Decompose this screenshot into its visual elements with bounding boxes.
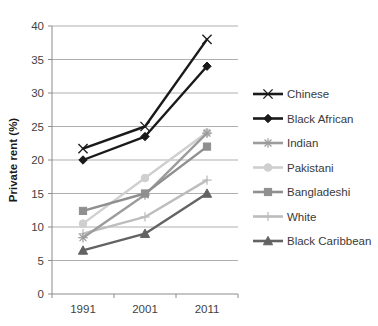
square-marker — [203, 143, 210, 150]
y-tick-label: 15 — [31, 188, 44, 200]
legend-item-label: White — [287, 211, 316, 223]
square-marker — [264, 188, 271, 195]
legend-item-label: Indian — [287, 137, 318, 149]
line-chart-private-rent: 0510152025303540 199120012011 Private re… — [0, 0, 378, 326]
asterisk-marker — [263, 138, 273, 148]
legend-item-label: Chinese — [287, 88, 329, 100]
square-marker — [141, 190, 148, 197]
legend-item-label: Bangladeshi — [287, 186, 350, 198]
y-tick-label: 10 — [31, 221, 44, 233]
chart-canvas: 0510152025303540 199120012011 Private re… — [0, 0, 378, 326]
y-axis-tick-labels: 0510152025303540 — [31, 20, 44, 300]
legend-item[interactable]: Indian — [253, 137, 318, 149]
series-plot-group — [78, 35, 212, 254]
x-cross-marker — [202, 35, 211, 44]
y-tick-label: 30 — [31, 87, 44, 99]
x-tick-label: 2001 — [132, 303, 158, 315]
asterisk-marker — [78, 233, 88, 243]
x-tick-label: 1991 — [70, 303, 96, 315]
series-line — [83, 194, 207, 251]
y-tick-label: 40 — [31, 20, 44, 32]
y-tick-label: 0 — [38, 288, 44, 300]
x-axis-tick-labels: 199120012011 — [70, 303, 219, 315]
x-tick-label: 2011 — [195, 303, 220, 315]
asterisk-marker — [202, 128, 212, 138]
y-axis-ticks — [48, 26, 52, 294]
x-axis-ticks — [52, 294, 238, 298]
legend-item[interactable]: Bangladeshi — [253, 186, 350, 198]
y-tick-label: 35 — [31, 54, 44, 66]
series-line — [83, 133, 207, 238]
legend-item[interactable]: Black African — [253, 113, 353, 125]
legend-item-label: Pakistani — [287, 162, 334, 174]
y-tick-label: 5 — [38, 255, 44, 267]
legend-item[interactable]: Pakistani — [253, 162, 334, 174]
y-tick-label: 20 — [31, 154, 44, 166]
legend-item-label: Black Caribbean — [287, 235, 371, 247]
circle-marker — [79, 220, 87, 228]
y-tick-label: 25 — [31, 121, 44, 133]
diamond-marker — [79, 156, 87, 164]
circle-marker — [264, 164, 272, 172]
chart-legend: ChineseBlack AfricanIndianPakistaniBangl… — [253, 88, 371, 247]
legend-item[interactable]: Chinese — [253, 88, 329, 100]
legend-item[interactable]: Black Caribbean — [253, 235, 371, 247]
square-marker — [79, 207, 86, 214]
legend-item-label: Black African — [287, 113, 353, 125]
y-axis-title: Private rent (%) — [7, 118, 19, 203]
circle-marker — [141, 174, 149, 182]
data-series — [78, 128, 212, 242]
plus-marker — [263, 212, 272, 221]
diamond-marker — [264, 114, 272, 122]
legend-item[interactable]: White — [253, 211, 316, 223]
